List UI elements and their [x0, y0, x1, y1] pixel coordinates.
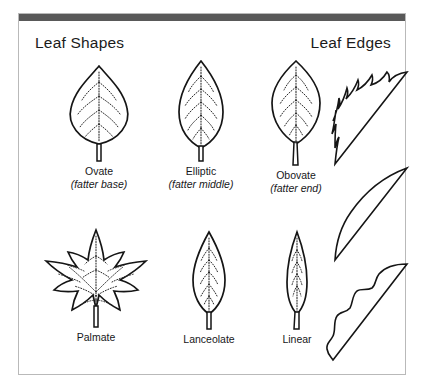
- elliptic-leaf-icon: [159, 56, 243, 164]
- leaf-edge-cell-toothed: Toothed: [325, 66, 421, 176]
- leaf-shape-cell-palmate: Palmate: [33, 226, 159, 344]
- leaf-shape-label: Ovate: [47, 165, 151, 178]
- section-title-leaf-shapes: Leaf Shapes: [35, 34, 124, 52]
- toothed-edge-icon: [325, 66, 421, 170]
- leaf-edge-cell-entire: Entire: [325, 162, 421, 270]
- leaf-shape-cell-ovate: Ovate (fatter base): [47, 60, 151, 191]
- lanceolate-leaf-icon: [180, 228, 238, 332]
- leaf-shape-label: Elliptic: [149, 165, 253, 178]
- leaf-shape-label: Lanceolate: [162, 333, 256, 346]
- figure-frame: Leaf Shapes Leaf Edges Ovate: [18, 13, 406, 375]
- leaf-shape-cell-elliptic: Elliptic (fatter middle): [149, 56, 253, 191]
- leaf-shape-qualifier: (fatter middle): [149, 178, 253, 191]
- leaf-shape-cell-lanceolate: Lanceolate: [162, 228, 256, 346]
- leaf-edge-cell-lobed: Lobed: [325, 258, 421, 370]
- figure-page: Leaf Shapes Leaf Edges Ovate: [0, 0, 425, 380]
- entire-edge-icon: [325, 162, 421, 266]
- section-title-leaf-edges: Leaf Edges: [311, 34, 391, 52]
- lobed-edge-icon: [325, 258, 421, 366]
- ovate-leaf-icon: [57, 60, 141, 164]
- leaf-shape-label: Palmate: [33, 331, 159, 344]
- leaf-shape-qualifier: (fatter base): [47, 178, 151, 191]
- header-accent-bar: [19, 14, 405, 21]
- linear-leaf-icon: [273, 228, 321, 332]
- palmate-leaf-icon: [36, 226, 156, 330]
